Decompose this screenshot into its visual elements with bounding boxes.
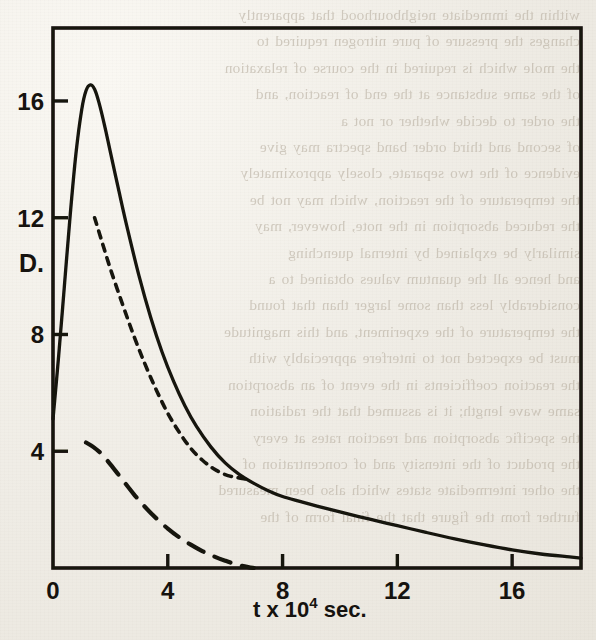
x-tick-label: 12 [384,577,411,604]
plot-frame [53,28,581,568]
y-tick-label: 4 [31,438,45,465]
curve-component-a [95,218,246,479]
y-tick-label: 8 [31,321,44,348]
x-tick-label: 4 [161,577,175,604]
y-tick-label: 16 [17,88,44,115]
data-curves [53,85,581,568]
x-tick-label: 0 [46,577,59,604]
x-tick-label: 16 [499,577,526,604]
curve-component-b [86,442,254,568]
x-axis-label: t x 104 sec. [253,594,367,622]
curve-total [53,85,581,558]
y-axis-label: D. [19,249,44,277]
kinetics-chart: 0481216 481216 D. t x 104 sec. [0,0,596,640]
svg-text:t x 104 sec.: t x 104 sec. [253,594,367,622]
y-tick-label: 12 [17,205,44,232]
scanned-page: within the immediate neighbourhood that … [0,0,596,640]
